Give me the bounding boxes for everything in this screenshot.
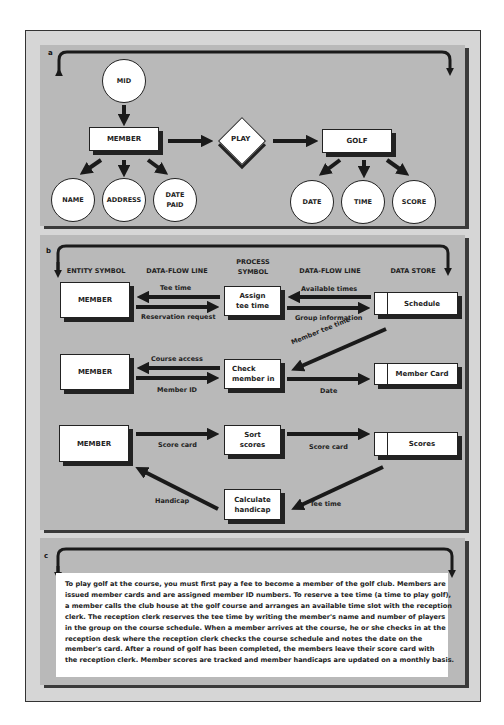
header-data-flow-right: DATA-FLOW LINE — [290, 266, 370, 276]
flow-course-access: Course access — [151, 355, 203, 363]
description-text: To play golf at the course, you must fir… — [56, 573, 448, 677]
flow-group-information: Group information — [295, 314, 363, 322]
flow-score-card-left: Score card — [158, 441, 197, 449]
attribute-mid: MID — [102, 59, 146, 103]
panel-b-label: b — [46, 247, 51, 255]
store-schedule: Schedule — [374, 292, 458, 315]
process-assign-tee-time: Assign tee time — [224, 286, 281, 316]
flow-tee-time: Tee time — [160, 284, 191, 292]
entity-golf: GOLF — [322, 129, 392, 153]
attribute-date: DATE — [290, 180, 334, 224]
attribute-name: NAME — [51, 178, 95, 222]
flow-member-id: Member ID — [157, 386, 197, 394]
header-data-flow-left: DATA-FLOW LINE — [137, 266, 217, 276]
entity-member-row3: MEMBER — [59, 425, 129, 462]
flow-score-card-right: Score card — [309, 443, 348, 451]
entity-member: MEMBER — [89, 127, 159, 151]
relationship-play-label: PLAY — [231, 135, 250, 143]
header-entity-symbol: ENTITY SYMBOL — [56, 266, 136, 276]
attribute-date-paid: DATE PAID — [153, 178, 197, 222]
process-check-member-in: Check member in — [224, 359, 281, 389]
entity-member-row1: MEMBER — [60, 282, 130, 318]
attribute-address: ADDRESS — [102, 178, 146, 222]
panel-a-label: a — [48, 49, 53, 57]
store-member-card: Member Card — [374, 363, 458, 385]
header-data-store: DATA STORE — [378, 266, 448, 276]
attribute-score: SCORE — [392, 180, 436, 224]
flow-available-times: Available times — [301, 285, 357, 293]
header-process-symbol: PROCESS SYMBOL — [218, 257, 288, 277]
process-calculate-handicap: Calculate handicap — [224, 489, 281, 520]
store-scores: Scores — [374, 432, 458, 456]
flow-handicap: Handicap — [155, 497, 189, 505]
entity-member-row2: MEMBER — [60, 354, 130, 390]
flow-tee-time-calc: Tee time — [310, 500, 341, 508]
flow-reservation-request: Reservation request — [141, 313, 216, 321]
panel-c-label: c — [44, 552, 48, 560]
process-sort-scores: Sort scores — [224, 425, 281, 455]
attribute-time: TIME — [341, 180, 385, 224]
flow-date: Date — [320, 387, 337, 395]
